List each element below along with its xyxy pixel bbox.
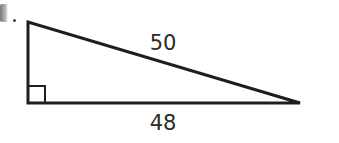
base-label: 48 xyxy=(150,113,177,134)
hypotenuse-label: 50 xyxy=(150,33,177,54)
right-angle-marker xyxy=(28,86,45,103)
